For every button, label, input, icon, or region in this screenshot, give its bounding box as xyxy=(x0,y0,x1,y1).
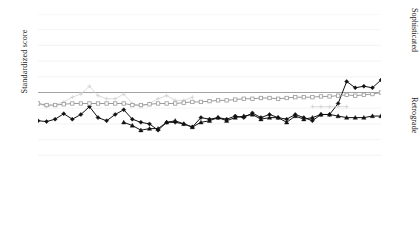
line-chart: Standardized score Sophisticated Retrogr… xyxy=(0,0,420,231)
data-point-marker xyxy=(191,100,194,103)
data-point-marker xyxy=(234,98,237,101)
data-point-marker xyxy=(174,102,177,105)
data-point-marker xyxy=(242,97,245,100)
data-point-marker xyxy=(173,119,177,123)
data-point-marker xyxy=(38,119,40,123)
data-point-marker xyxy=(268,96,271,99)
data-point-marker xyxy=(319,95,322,98)
data-point-marker xyxy=(45,120,49,124)
data-point-marker xyxy=(190,95,194,99)
data-point-marker xyxy=(225,99,228,102)
data-point-marker xyxy=(105,102,108,105)
data-point-marker xyxy=(362,84,366,88)
data-point-marker xyxy=(38,102,40,105)
data-point-marker xyxy=(71,102,74,105)
data-point-marker xyxy=(199,100,202,103)
series-monarchical-families xyxy=(122,112,381,132)
data-point-marker xyxy=(165,102,168,105)
data-point-marker xyxy=(105,97,109,101)
data-point-marker xyxy=(345,93,348,96)
plot-area xyxy=(38,14,381,171)
data-point-marker xyxy=(139,103,142,106)
data-point-marker xyxy=(294,96,297,99)
data-point-marker xyxy=(354,94,357,97)
data-point-marker xyxy=(328,95,331,98)
data-point-marker xyxy=(285,96,288,99)
data-point-marker xyxy=(336,94,339,97)
data-point-marker xyxy=(122,120,126,124)
data-point-marker xyxy=(96,102,99,105)
data-point-marker xyxy=(276,97,279,100)
y-axis-tick-labels xyxy=(8,14,34,171)
data-point-marker xyxy=(113,97,117,101)
data-point-marker xyxy=(311,96,314,99)
chart-legend xyxy=(0,196,420,228)
series-single-parties xyxy=(38,91,381,107)
data-point-marker xyxy=(53,103,56,106)
data-point-marker xyxy=(122,102,125,105)
plot-svg xyxy=(38,14,381,171)
data-point-marker xyxy=(70,95,74,99)
data-point-marker xyxy=(148,103,151,106)
data-point-marker xyxy=(79,102,82,105)
data-point-marker xyxy=(259,96,262,99)
data-point-marker xyxy=(362,93,365,96)
data-point-marker xyxy=(113,102,116,105)
data-point-marker xyxy=(156,102,159,105)
data-point-marker xyxy=(131,103,134,106)
data-point-marker xyxy=(379,91,381,94)
data-point-marker xyxy=(251,97,254,100)
data-point-marker xyxy=(156,97,160,101)
data-point-marker xyxy=(216,99,219,102)
right-axis-bottom-label: Retrograde xyxy=(410,97,419,133)
data-point-marker xyxy=(45,103,48,106)
x-axis-tick-labels xyxy=(38,175,381,187)
data-point-marker xyxy=(208,99,211,102)
data-point-marker xyxy=(302,96,305,99)
data-point-marker xyxy=(165,94,169,98)
right-axis-top-label: Sophisticated xyxy=(410,8,419,52)
data-point-marker xyxy=(371,92,374,95)
data-point-marker xyxy=(88,102,91,105)
data-point-marker xyxy=(62,103,65,106)
data-point-marker xyxy=(182,101,185,104)
